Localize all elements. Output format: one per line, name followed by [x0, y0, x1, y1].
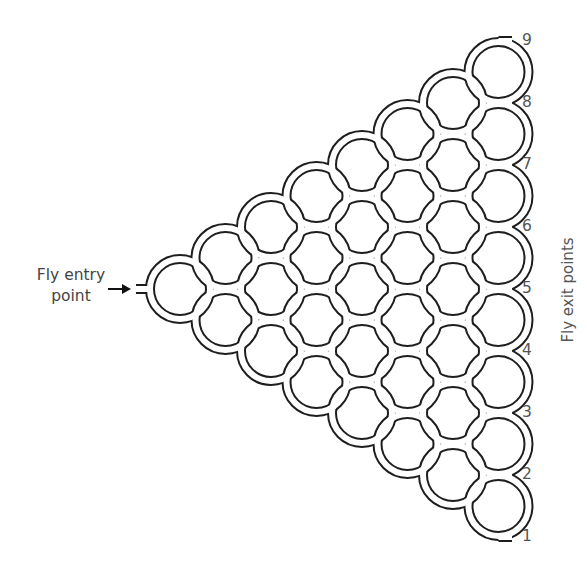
exit-label-5: 5 — [522, 280, 532, 296]
exit-label-9: 9 — [522, 32, 532, 48]
exit-label-2: 2 — [522, 466, 532, 482]
exit-axis-title: Fly exit points — [559, 220, 577, 360]
entry-label-line1: Fly entry — [28, 265, 114, 286]
exit-label-1: 1 — [522, 528, 532, 544]
exit-label-3: 3 — [522, 404, 532, 420]
exit-label-7: 7 — [522, 156, 532, 172]
entry-label-line2: point — [28, 286, 114, 307]
exit-label-4: 4 — [522, 342, 532, 358]
exit-label-6: 6 — [522, 218, 532, 234]
exit-label-8: 8 — [522, 94, 532, 110]
entry-label: Fly entry point — [28, 265, 114, 307]
